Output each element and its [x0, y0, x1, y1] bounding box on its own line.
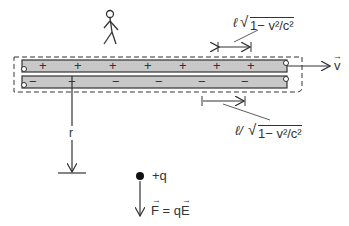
plus-charge: +: [109, 59, 117, 72]
plus-charge: +: [213, 59, 221, 72]
force-label: F = qE: [151, 204, 190, 217]
bottom-spacing-root: 1− v²/c²: [258, 125, 302, 140]
test-charge-dot: [136, 172, 144, 180]
distance-label: r: [69, 127, 73, 139]
minus-charge: −: [241, 75, 249, 88]
plus-charge: +: [144, 59, 152, 72]
sqrt-symbol: √: [248, 122, 256, 137]
minus-charge: −: [68, 75, 76, 88]
observer-figure-icon: [104, 11, 118, 45]
plus-charge: +: [39, 59, 47, 72]
minus-charge: −: [155, 75, 163, 88]
diagram-canvas: [0, 0, 349, 226]
minus-charge: −: [29, 75, 37, 88]
charge-label: +q: [152, 169, 167, 182]
bottom-spacing-prefix: ℓ/: [235, 124, 243, 137]
plus-charge: +: [179, 59, 187, 72]
plus-charge: +: [74, 59, 82, 72]
plus-charge: +: [247, 59, 255, 72]
top-spacing-root: 1− v²/c²: [250, 17, 294, 32]
sqrt-symbol: √: [240, 14, 248, 29]
minus-charge: −: [198, 75, 206, 88]
top-spacing-ell: ℓ: [233, 16, 237, 29]
minus-charge: −: [112, 75, 120, 88]
velocity-label: v: [334, 59, 341, 72]
